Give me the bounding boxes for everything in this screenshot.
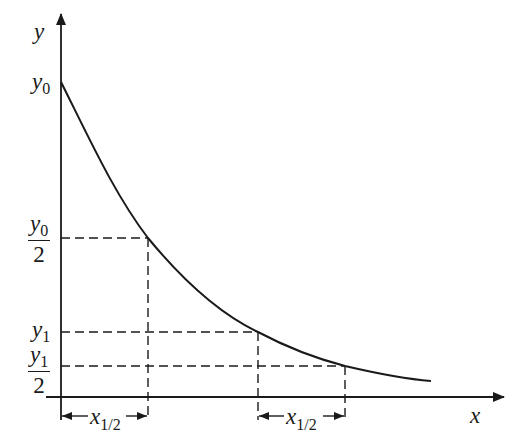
x-axis-label-text: x	[470, 403, 480, 428]
half-life-diagram	[0, 0, 522, 446]
y0-half-label: y0 2	[28, 212, 50, 266]
y0-half-sub: 0	[40, 222, 48, 239]
y0-half-var: y	[30, 211, 40, 236]
half-life-label-2: x1/2	[284, 405, 319, 433]
y1-var: y	[32, 317, 42, 342]
half-life-1-sub: 1/2	[100, 416, 120, 433]
half-life-2-var: x	[286, 404, 296, 429]
y1-half-denominator: 2	[33, 372, 45, 397]
y1-half-label: y1 2	[28, 343, 50, 397]
y0-label: y0	[32, 70, 50, 97]
y0-var: y	[32, 69, 42, 94]
guide-lines	[61, 238, 345, 420]
half-life-1-var: x	[90, 404, 100, 429]
y1-half-sub: 1	[40, 353, 48, 370]
half-life-label-1: x1/2	[88, 405, 123, 433]
x-axis-label: x	[470, 404, 480, 427]
y0-half-denominator: 2	[33, 241, 45, 266]
y-axis-label: y	[34, 20, 44, 43]
half-life-2-sub: 1/2	[296, 416, 316, 433]
y-axis-label-text: y	[34, 19, 44, 44]
y0-half-numerator: y0	[28, 212, 50, 241]
y1-half-numerator: y1	[28, 343, 50, 372]
y1-half-var: y	[30, 342, 40, 367]
y0-sub: 0	[42, 80, 50, 97]
decay-curve	[61, 82, 431, 381]
y1-label: y1	[32, 318, 50, 345]
